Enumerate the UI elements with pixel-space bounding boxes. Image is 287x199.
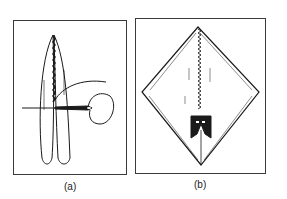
panel-b-illustration — [142, 27, 259, 165]
panel-a-caption: (a) — [64, 181, 76, 192]
diagram-drawing — [0, 0, 287, 199]
panel-b-caption: (b) — [194, 179, 206, 190]
panel-a-illustration — [22, 35, 114, 164]
